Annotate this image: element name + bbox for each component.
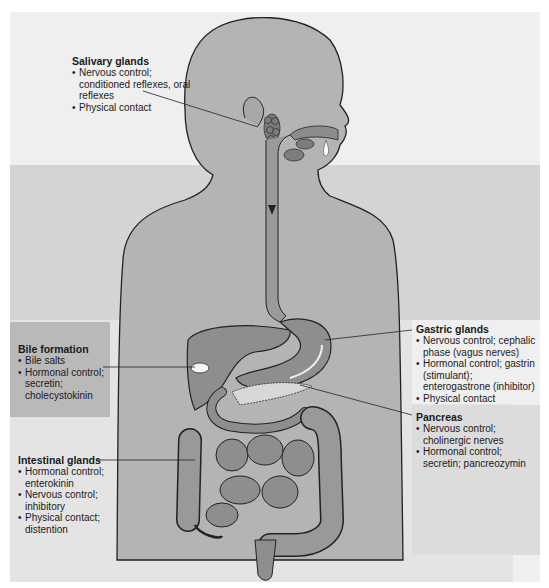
label-item: Physical contact — [416, 393, 542, 405]
label-item: Physical contact; distention — [18, 512, 108, 535]
label-item: Nervous control; inhibitory — [18, 489, 108, 512]
label-title: Intestinal glands — [18, 454, 108, 466]
label-title: Salivary glands — [72, 55, 192, 67]
label-item: Nervous control; cholinergic nerves — [416, 423, 536, 446]
label-title: Gastric glands — [416, 323, 542, 335]
label-salivary-glands: Salivary glands Nervous control; conditi… — [72, 55, 192, 113]
label-item: Hormonal control; secretin; cholecystoki… — [18, 367, 110, 402]
gallbladder — [191, 363, 209, 373]
label-item: Nervous control; conditioned reflexes, o… — [72, 67, 192, 102]
rectum — [255, 540, 276, 580]
label-item: Hormonal control; enterokinin — [18, 466, 108, 489]
label-pancreas: Pancreas Nervous control; cholinergic ne… — [416, 411, 536, 469]
label-title: Pancreas — [416, 411, 536, 423]
label-bile-formation: Bile formation Bile salts Hormonal contr… — [18, 343, 110, 401]
label-item: Hormonal control; gastrin (stimulant); e… — [416, 358, 542, 393]
label-item: Hormonal control; secretin; pancreozymin — [416, 446, 536, 469]
label-gastric-glands: Gastric glands Nervous control; cephalic… — [416, 323, 542, 404]
label-item: Bile salts — [18, 355, 110, 367]
label-item: Physical contact — [72, 102, 192, 114]
label-item: Nervous control; cephalic phase (vagus n… — [416, 335, 542, 358]
label-intestinal-glands: Intestinal glands Hormonal control; ente… — [18, 454, 108, 535]
label-title: Bile formation — [18, 343, 110, 355]
